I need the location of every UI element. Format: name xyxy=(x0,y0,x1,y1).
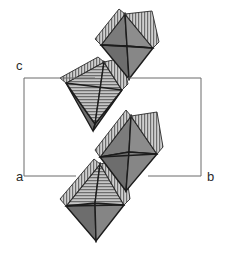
axis-label-c: c xyxy=(16,59,23,72)
octahedron-4-face-bottom-right xyxy=(95,203,124,241)
octahedron-4-face-bottom-left xyxy=(66,203,96,241)
axis-label-a: a xyxy=(16,170,23,183)
octahedron-4-edge-waist xyxy=(66,205,124,206)
octahedron-3-face-bottom-right xyxy=(126,152,157,191)
octahedron-1-face-bottom-right xyxy=(127,46,153,79)
axis-label-b: b xyxy=(207,170,214,183)
octahedra-chain-drawing xyxy=(0,0,230,254)
crystal-structure-figure: c a b xyxy=(0,0,230,254)
